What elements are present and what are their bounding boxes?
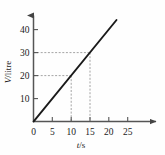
x-tick-labels: 0 5 10 15 20 25 [31, 127, 133, 137]
y-axis-title-unit: /litre [3, 61, 13, 78]
y-axis-title: V/litre [3, 61, 13, 84]
chart-canvas: 10 20 30 40 0 5 10 15 20 25 t/s V/litre [0, 0, 165, 155]
x-tick-label-20: 20 [104, 127, 114, 137]
x-tick-label-15: 15 [85, 127, 95, 137]
y-tick-labels: 10 20 30 40 [20, 25, 30, 104]
x-tick-label-25: 25 [123, 127, 133, 137]
x-axis-title-unit: /s [79, 140, 86, 150]
x-axis-title: t/s [77, 140, 86, 150]
y-tick-label-40: 40 [20, 25, 30, 35]
data-series-group [34, 20, 117, 122]
y-tick-label-20: 20 [20, 71, 30, 81]
x-tick-label-5: 5 [50, 127, 55, 137]
axes-group [34, 16, 157, 122]
volume-time-line-chart: 10 20 30 40 0 5 10 15 20 25 t/s V/litre [0, 0, 165, 155]
y-tick-label-30: 30 [20, 48, 30, 58]
y-tick-label-10: 10 [20, 94, 30, 104]
volume-line [34, 20, 117, 122]
x-tick-label-0: 0 [31, 127, 36, 137]
x-tick-label-10: 10 [66, 127, 76, 137]
